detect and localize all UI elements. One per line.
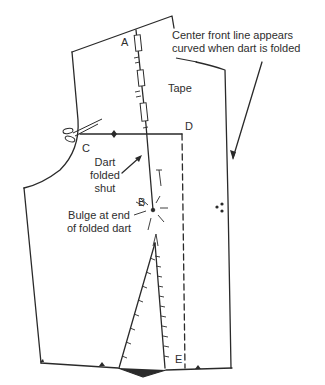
point-a-label: A xyxy=(121,36,128,48)
tape-piece xyxy=(137,70,145,87)
dart-folded-label: Dart folded shut xyxy=(82,156,128,195)
cf-leader-arrow xyxy=(233,62,262,158)
notch-icon xyxy=(195,365,201,369)
line-d-e xyxy=(182,134,185,368)
center-front-label: Center front line appears curved when da… xyxy=(172,29,300,55)
point-e-label: E xyxy=(175,353,182,365)
dot-cluster-icon xyxy=(215,202,223,212)
pattern-diagram xyxy=(0,0,325,385)
tick-mark xyxy=(156,170,162,186)
neckline-curve xyxy=(196,62,231,368)
tape-piece xyxy=(140,103,148,122)
dart-leg-left xyxy=(119,243,155,368)
tape-label: Tape xyxy=(168,82,192,95)
dart-leg-right xyxy=(155,243,165,368)
bulge-label: Bulge at end of folded dart xyxy=(58,209,140,235)
notch-icon xyxy=(99,362,105,366)
point-d-label: D xyxy=(185,120,193,132)
point-b-label: B xyxy=(138,196,145,208)
point-c-label: C xyxy=(82,142,90,154)
notch-diamond-icon xyxy=(111,130,117,138)
side-seam xyxy=(24,188,41,363)
scissors-icon xyxy=(63,119,102,143)
tape-piece xyxy=(134,35,142,52)
armhole-curve xyxy=(24,52,78,188)
